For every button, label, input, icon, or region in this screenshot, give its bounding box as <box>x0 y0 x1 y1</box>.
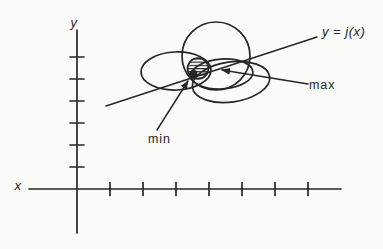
y-axis-label: y <box>70 15 79 30</box>
min-label: min <box>148 132 171 146</box>
curve-label: y = j(x) <box>321 24 365 39</box>
curve-line <box>106 37 317 106</box>
figure-canvas: y x y = j(x) max min <box>0 0 383 249</box>
x-axis-label: x <box>14 178 22 193</box>
figure: y x y = j(x) max min <box>0 0 383 249</box>
max-label: max <box>309 78 335 92</box>
max-arrow <box>222 70 308 84</box>
